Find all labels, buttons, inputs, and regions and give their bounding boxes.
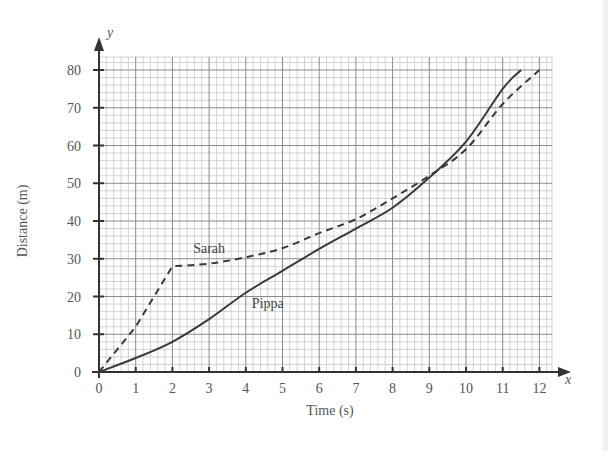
x-tick-label: 2 xyxy=(169,381,176,396)
x-tick-label: 8 xyxy=(389,381,396,396)
y-tick-label: 70 xyxy=(67,101,81,116)
y-tick-label: 30 xyxy=(67,252,81,267)
x-tick-label: 6 xyxy=(316,381,323,396)
distance-time-chart: 012345678910111201020304050607080 SarahP… xyxy=(0,0,608,451)
axis-ticks: 012345678910111201020304050607080 xyxy=(67,63,546,396)
x-tick-label: 4 xyxy=(242,381,249,396)
y-tick-label: 80 xyxy=(67,63,81,78)
y-tick-label: 50 xyxy=(67,176,81,191)
x-tick-label: 1 xyxy=(132,381,139,396)
y-tick-label: 10 xyxy=(67,327,81,342)
y-axis-arrow-icon xyxy=(94,37,104,51)
x-tick-label: 9 xyxy=(426,381,433,396)
grid-minor xyxy=(99,57,552,372)
y-tick-label: 60 xyxy=(67,139,81,154)
chart-canvas: 012345678910111201020304050607080 SarahP… xyxy=(0,0,608,451)
series-label-pippa: Pippa xyxy=(252,296,285,311)
x-tick-label: 0 xyxy=(96,381,103,396)
page-edge xyxy=(603,0,608,451)
y-axis-title: Distance (m) xyxy=(15,184,31,257)
x-tick-label: 10 xyxy=(459,381,473,396)
x-tick-label: 7 xyxy=(352,381,359,396)
y-axis-variable: y xyxy=(105,25,114,40)
x-tick-label: 3 xyxy=(206,381,213,396)
y-tick-label: 20 xyxy=(67,290,81,305)
x-tick-label: 12 xyxy=(532,381,546,396)
x-tick-label: 11 xyxy=(496,381,509,396)
y-tick-label: 40 xyxy=(67,214,81,229)
x-axis-variable: x xyxy=(564,372,572,387)
y-tick-label: 0 xyxy=(74,365,81,380)
grid-major xyxy=(99,57,552,372)
x-axis-title: Time (s) xyxy=(306,403,354,419)
series-label-sarah: Sarah xyxy=(193,241,225,256)
x-tick-label: 5 xyxy=(279,381,286,396)
